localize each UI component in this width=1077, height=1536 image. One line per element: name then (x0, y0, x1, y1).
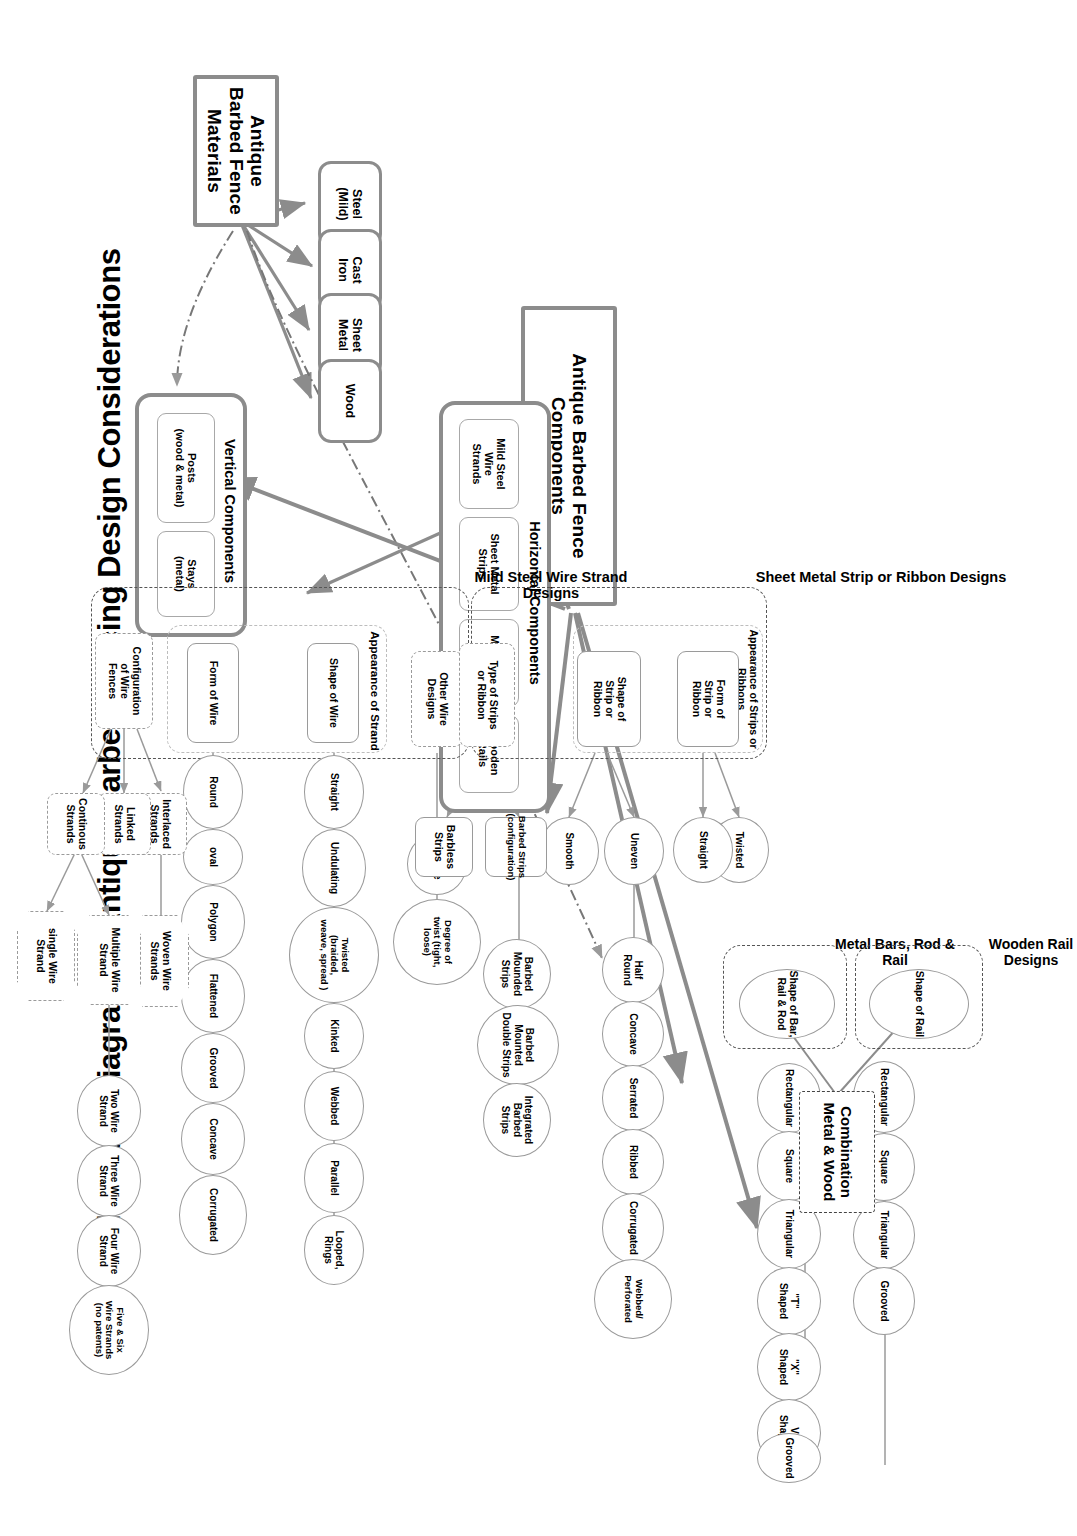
horizontal-item-wire-strands[interactable]: Mild Steel Wire Strands (459, 419, 519, 509)
wire-shape-child-label: Polygon (207, 902, 218, 941)
config-branch-interlaced-label: Interlaced Strands (148, 799, 172, 849)
material-wood[interactable]: Wood (318, 359, 382, 443)
node-shape-of-wire-label: Shape of Wire (327, 658, 339, 728)
config-child-woven-label: Woven Wire Strands (148, 931, 172, 991)
wire-shape-child[interactable]: Corrugated (179, 1175, 247, 1255)
multiple-strand-child-label: Three Wire Strand (98, 1155, 120, 1207)
wire-form-child[interactable]: Webbed (304, 1071, 364, 1141)
node-configuration-of-wire-fences[interactable]: Configuration of Wire Fences (95, 633, 153, 729)
node-shape-of-strip[interactable]: Shape of Strip or Ribbon (577, 651, 641, 747)
wire-shape-child[interactable]: Round (183, 755, 243, 829)
config-child-multiple-wire-strand[interactable]: Multiple Wire Strand (77, 915, 141, 1005)
uneven-child[interactable]: Webbed/ Perforated (594, 1259, 672, 1339)
wire-form-child-label: Parallel (328, 1160, 339, 1196)
wire-form-child-label: Twisted (braided, weave, spread ) (318, 920, 350, 991)
material-sheet-metal-label: Sheet Metal (336, 318, 364, 352)
material-wood-label: Wood (343, 384, 357, 418)
node-combination-metal-wood[interactable]: Combination Metal & Wood (799, 1091, 875, 1213)
wire-shape-child-label: Flattened (207, 974, 218, 1018)
node-shape-of-bar-label: Shape of Bar, Rail & Rod (775, 970, 799, 1037)
wire-form-child[interactable]: Looped, Rings (304, 1215, 364, 1285)
wooden-rail-child-label: Grooved (878, 1280, 889, 1321)
uneven-child[interactable]: Concave (602, 1001, 664, 1067)
wire-form-child-label: Straight (328, 773, 339, 811)
uneven-child[interactable]: Ribbed (602, 1129, 664, 1195)
uneven-child-label: Corrugated (627, 1201, 638, 1255)
wooden-rail-child-label: Square (878, 1150, 889, 1184)
barbed-strip-child[interactable]: Integrated Barbed Strips (483, 1083, 551, 1157)
wire-shape-child-label: Concave (207, 1118, 218, 1160)
wire-shape-child-label: oval (207, 847, 218, 867)
vertical-item-posts-label: Posts (wood & metal) (174, 429, 199, 508)
config-branch-continous[interactable]: Continous Strands (47, 793, 105, 855)
wooden-rail-child-label: Triangular (878, 1211, 889, 1259)
barbed-strip-child[interactable]: Barbed Mounded Strips (483, 939, 551, 1009)
config-branch-linked[interactable]: Linked Strands (97, 793, 151, 855)
multiple-strand-child[interactable]: Four Wire Strand (77, 1215, 141, 1287)
metal-bar-child-label: "X" Shaped (778, 1349, 800, 1385)
wire-shape-child[interactable]: oval (183, 829, 243, 885)
node-form-of-strip[interactable]: Form of Strip or Ribbon (677, 651, 739, 747)
wire-form-child[interactable]: Parallel (304, 1143, 364, 1213)
other-wire-child[interactable]: Degree of twist (tight, loose) (393, 899, 481, 985)
uneven-child[interactable]: Half Round (602, 937, 664, 1003)
root-materials[interactable]: Antique Barbed Fence Materials (193, 75, 279, 227)
horizontal-item-wire-strands-label: Mild Steel Wire Strands (471, 438, 508, 489)
type-branch-barbed-strips-label: Barbed Strips (configuration) (505, 814, 526, 881)
wire-shape-child[interactable]: Flattened (181, 959, 245, 1033)
strip-form-child-label: Twisted (733, 832, 744, 868)
multiple-strand-child[interactable]: Two Wire Strand (77, 1075, 141, 1147)
config-child-single-wire-strand[interactable]: single Wire Strand (17, 911, 75, 1001)
wire-form-child[interactable]: Undulating (302, 829, 366, 907)
wire-shape-child[interactable]: Concave (181, 1103, 245, 1175)
strip-shape-child-smooth[interactable]: Smooth (539, 817, 599, 885)
wooden-rail-child-label: Rectangular (878, 1068, 889, 1126)
wire-form-child-label: Webbed (328, 1087, 339, 1126)
wire-form-child-label: Kinked (328, 1019, 339, 1052)
node-other-wire-designs[interactable]: Other Wire Designs (411, 651, 463, 747)
type-branch-barbed-strips[interactable]: Barbed Strips (configuration) (485, 817, 547, 877)
uneven-child-label: Webbed/ Perforated (622, 1275, 643, 1323)
strip-ribbon-designs-label: Sheet Metal Strip or Ribbon Designs (751, 569, 1011, 585)
wire-shape-child[interactable]: Polygon (181, 885, 245, 959)
strip-shape-child-smooth-label: Smooth (563, 832, 574, 869)
config-branch-continous-label: Continous Strands (64, 798, 88, 850)
type-branch-barbless-strips[interactable]: Barbless Strips (415, 817, 473, 877)
multiple-strand-child[interactable]: Five & Six Wire Strands (no patents) (69, 1285, 149, 1375)
barbed-strip-child-label: Integrated Barbed Strips (500, 1096, 534, 1144)
multiple-strand-child[interactable]: Three Wire Strand (77, 1145, 141, 1217)
strip-form-child[interactable]: Straight (673, 817, 733, 883)
node-form-of-wire[interactable]: Form of Wire (187, 643, 239, 743)
wire-form-child[interactable]: Straight (304, 755, 364, 829)
uneven-child[interactable]: Serrated (602, 1065, 664, 1131)
uneven-child-label: Half Round (622, 954, 644, 986)
multiple-strand-child-label: Four Wire Strand (98, 1228, 120, 1275)
config-child-single-wire-strand-label: single Wire Strand (34, 928, 58, 984)
node-shape-of-rail[interactable]: Shape of Rail (869, 969, 969, 1039)
wire-form-child-label: Looped, Rings (323, 1231, 345, 1270)
metal-bar-child[interactable]: Grooved (757, 1433, 821, 1483)
multiple-strand-child-label: Five & Six Wire Strands (no patents) (93, 1301, 125, 1360)
wooden-rail-child[interactable]: Grooved (853, 1267, 915, 1335)
strip-form-child-label: Straight (697, 831, 708, 869)
strip-shape-child-uneven[interactable]: Uneven (604, 817, 664, 885)
node-type-of-strips[interactable]: Type of Strips or Ribbon (459, 643, 515, 747)
node-shape-of-wire[interactable]: Shape of Wire (307, 643, 359, 743)
metal-bar-child-label: "T" Shaped (778, 1283, 800, 1319)
metal-bar-child[interactable]: "T" Shaped (757, 1267, 821, 1335)
metal-bar-child[interactable]: "X" Shaped (757, 1333, 821, 1401)
uneven-child-label: Serrated (627, 1078, 638, 1119)
wire-form-child[interactable]: Kinked (304, 1003, 364, 1069)
node-shape-of-bar[interactable]: Shape of Bar, Rail & Rod (739, 969, 835, 1039)
wire-shape-child[interactable]: Grooved (181, 1033, 245, 1103)
vertical-item-posts[interactable]: Posts (wood & metal) (157, 413, 215, 523)
node-type-of-strips-label: Type of Strips or Ribbon (475, 660, 499, 729)
config-branch-linked-label: Linked Strands (112, 804, 136, 843)
uneven-child[interactable]: Corrugated (602, 1193, 664, 1263)
barbed-strip-child[interactable]: Barbed Mounted Double Strips (477, 1005, 559, 1085)
other-wire-child-label: Degree of twist (tight, loose) (421, 917, 453, 968)
wire-form-child[interactable]: Twisted (braided, weave, spread ) (289, 907, 379, 1003)
multiple-strand-child-label: Two Wire Strand (98, 1089, 120, 1133)
strip-shape-child-uneven-label: Uneven (628, 833, 639, 869)
